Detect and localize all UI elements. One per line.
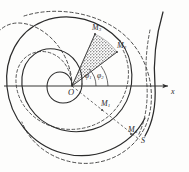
label-x-axis: x [171, 88, 175, 96]
label-M2: M2 [117, 42, 126, 51]
label-M1: M1 [101, 100, 110, 109]
outer-spiral-dashed-2 [22, 11, 151, 163]
spiral-figure: M3 M2 M1 M4 O φ1 φ2 x S [0, 0, 189, 172]
point-dot-M1 [101, 109, 103, 111]
right-arc-solid [145, 12, 163, 136]
label-origin: O [68, 88, 74, 97]
point-dot-M2 [116, 51, 118, 53]
point-dot-M3 [94, 33, 96, 35]
label-angle-phi-1: φ1 [85, 72, 91, 81]
label-angle-phi-2: φ2 [97, 72, 103, 81]
label-M4: M4 [128, 126, 137, 135]
label-curve-s: S [141, 137, 145, 145]
label-M3: M3 [92, 24, 101, 33]
